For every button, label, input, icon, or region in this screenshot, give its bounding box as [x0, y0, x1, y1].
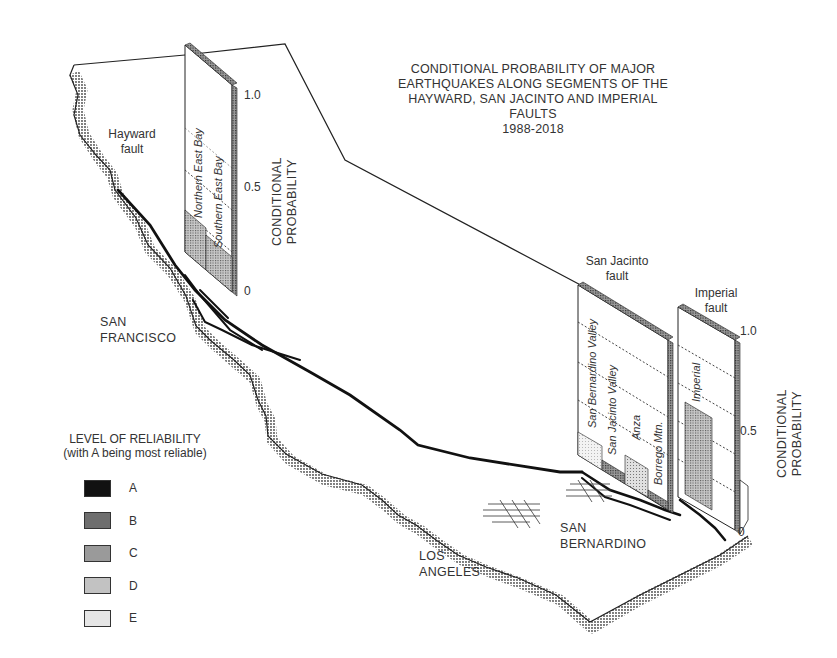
los-angeles-grid-icon [483, 500, 540, 528]
city-label-los-angeles: LOS ANGELES [419, 548, 480, 580]
segment-label-southern-east-bay: Southern East Bay [212, 156, 224, 248]
reliability-legend: LEVEL OF RELIABILITY (with A being most … [40, 432, 230, 635]
legend-subtitle: (with A being most reliable) [40, 446, 230, 460]
swatch-a [84, 480, 111, 497]
hayward-fault-label: Hayward fault [103, 127, 161, 157]
san-jacinto-fault-label: San Jacinto fault [580, 254, 654, 284]
segment-label-san-jacinto-valley: San Jacinto Valley [606, 365, 618, 455]
imperial-fault-label: Imperial fault [688, 286, 744, 316]
swatch-c [84, 545, 111, 562]
legend-item-d: D [84, 570, 230, 603]
imperial-tick-05: 0.5 [740, 424, 757, 438]
imperial-tick-1: 1.0 [740, 324, 757, 338]
bar-imperial [685, 402, 712, 510]
city-label-san-francisco: SAN FRANCISCO [100, 314, 176, 346]
city-label-san-bernardino: SAN BERNARDINO [560, 520, 646, 552]
hayward-y-axis-label: CONDITIONAL PROBABILITY [270, 157, 300, 246]
swatch-e [84, 610, 111, 627]
imperial-panel [678, 304, 748, 534]
segment-label-anza: Anza [630, 415, 642, 440]
legend-item-c: C [84, 537, 230, 570]
swatch-d [84, 577, 111, 594]
hayward-tick-0: 0 [244, 284, 251, 298]
swatch-b [84, 512, 111, 529]
imperial-tick-0: 0 [738, 525, 745, 539]
legend-item-a: A [84, 472, 230, 505]
hayward-tick-1: 1.0 [244, 88, 261, 102]
segment-label-san-bernardino-valley: San Bernardino Valley [586, 319, 598, 428]
legend-item-e: E [84, 602, 230, 635]
imperial-y-axis-label: CONDITIONAL PROBABILITY [775, 389, 805, 478]
segment-label-imperial: Imperial [690, 363, 702, 402]
chart-title: CONDITIONAL PROBABILITY OF MAJOR EARTHQU… [388, 62, 678, 137]
segment-label-borrego-mtn: Borrego Mtn. [652, 421, 664, 485]
segment-label-northern-east-bay: Northern East Bay [192, 128, 204, 218]
legend-title: LEVEL OF RELIABILITY [40, 432, 230, 446]
hayward-tick-05: 0.5 [244, 180, 261, 194]
legend-item-b: B [84, 505, 230, 538]
